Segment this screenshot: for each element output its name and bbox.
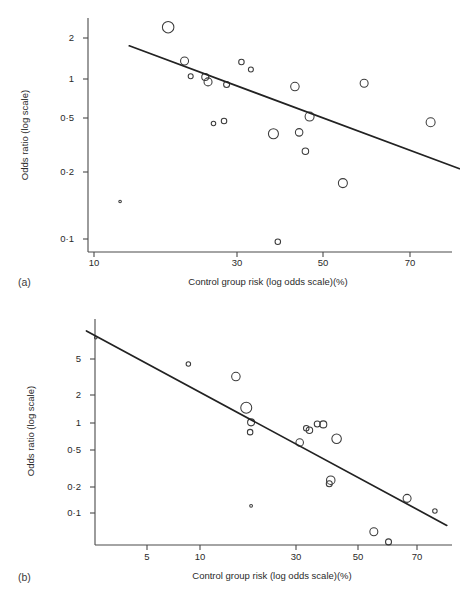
data-point-bubble [239, 59, 245, 65]
panel-b-y-ticks: 5210·50·20·1 [67, 353, 95, 518]
x-tick-label: 10 [195, 551, 206, 562]
y-tick-label: 1 [69, 73, 74, 84]
y-tick-label: 2 [69, 32, 74, 43]
data-point-bubble [247, 429, 253, 435]
data-point-bubble [426, 118, 435, 127]
panel-a-y-ticks: 210·50·20·1 [60, 32, 88, 244]
y-tick-label: 0·1 [67, 507, 81, 518]
panel-b: 5210·50·20·1 510305070 Control group ris… [0, 299, 460, 599]
data-point-bubble [360, 79, 368, 87]
x-tick-label: 5 [144, 551, 149, 562]
panel-a: 210·50·20·1 10305070 Control group risk … [0, 0, 460, 300]
panel-b-x-ticks: 510305070 [144, 545, 422, 562]
panel-b-plot: 5210·50·20·1 510305070 Control group ris… [0, 299, 460, 599]
panel-b-regression-line [86, 331, 446, 525]
panel-b-y-axis-title: Odds ratio (log scale) [25, 386, 36, 476]
data-point-bubble [241, 402, 252, 413]
panel-a-x-ticks: 10305070 [89, 252, 416, 268]
panel-a-y-axis-title: Odds ratio (log scale) [19, 90, 30, 180]
y-tick-label: 0·5 [67, 444, 81, 455]
x-tick-label: 30 [232, 257, 243, 268]
data-point-bubble [338, 179, 347, 188]
data-point-bubble [186, 362, 191, 367]
data-point-bubble [332, 434, 342, 444]
data-point-bubble [232, 372, 241, 381]
data-point-bubble [162, 21, 174, 33]
data-point-bubble [386, 539, 392, 545]
panel-a-points [119, 21, 435, 244]
data-point-bubble [302, 148, 309, 155]
y-tick-label: 1 [76, 417, 81, 428]
panel-a-axes [88, 18, 452, 252]
panel-b-label: (b) [18, 571, 31, 583]
panel-a-label: (a) [18, 276, 31, 288]
y-tick-label: 2 [76, 389, 81, 400]
data-point-bubble [248, 67, 253, 72]
data-point-bubble [403, 494, 411, 502]
panel-b-x-axis-title: Control group risk (log odds scale)(%) [192, 570, 351, 581]
data-point-bubble [181, 57, 189, 65]
data-point-bubble [320, 421, 327, 428]
figure-container: 210·50·20·1 10305070 Control group risk … [0, 0, 460, 599]
x-tick-label: 50 [318, 257, 329, 268]
y-tick-label: 0·1 [60, 233, 74, 244]
x-tick-label: 30 [291, 551, 302, 562]
x-tick-label: 70 [412, 551, 423, 562]
data-point-bubble [188, 74, 193, 79]
data-point-bubble [268, 129, 278, 139]
panel-a-regression-line [129, 46, 459, 169]
y-tick-label: 0·2 [67, 481, 81, 492]
data-point-bubble [291, 82, 300, 91]
x-tick-label: 50 [353, 551, 364, 562]
y-tick-label: 0·5 [60, 112, 74, 123]
data-point-bubble [370, 528, 378, 536]
panel-b-points [94, 336, 437, 545]
data-point-bubble [433, 509, 438, 514]
panel-a-plot: 210·50·20·1 10305070 Control group risk … [0, 0, 460, 300]
x-tick-label: 70 [405, 257, 416, 268]
data-point-bubble [119, 200, 122, 203]
y-tick-label: 0·2 [60, 166, 74, 177]
data-point-bubble [211, 121, 216, 126]
panel-a-x-axis-title: Control group risk (log odds scale)(%) [188, 276, 347, 287]
data-point-bubble [221, 118, 227, 124]
data-point-bubble [275, 239, 281, 245]
data-point-bubble [250, 504, 253, 507]
x-tick-label: 10 [89, 257, 100, 268]
data-point-bubble [295, 129, 303, 137]
data-point-bubble [327, 476, 336, 485]
y-tick-label: 5 [76, 353, 81, 364]
